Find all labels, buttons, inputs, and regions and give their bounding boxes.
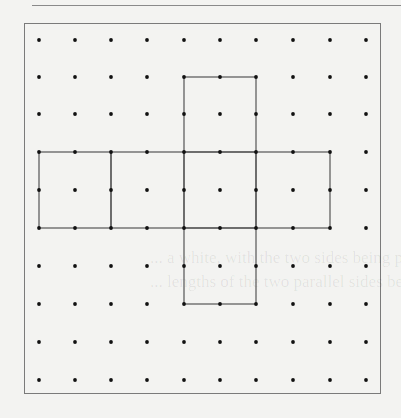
grid-dot (182, 75, 186, 79)
grid-dot (73, 150, 77, 154)
grid-dot (364, 150, 368, 154)
grid-dot (145, 112, 149, 116)
grid-dot (145, 378, 149, 382)
grid-dot (218, 264, 222, 268)
grid-dot (145, 302, 149, 306)
grid-dot (291, 75, 295, 79)
grid-dot (37, 112, 41, 116)
grid-dot (73, 378, 77, 382)
grid-dot (364, 112, 368, 116)
grid-dot (254, 112, 258, 116)
grid-dot (218, 75, 222, 79)
grid-dot (37, 302, 41, 306)
grid-dot (73, 112, 77, 116)
grid-dot (254, 302, 258, 306)
grid-dot (73, 188, 77, 192)
grid-dot (328, 226, 332, 230)
grid-dot (145, 340, 149, 344)
grid-dot (109, 75, 113, 79)
grid-dot (73, 264, 77, 268)
grid-dot (218, 378, 222, 382)
grid-dot (182, 150, 186, 154)
grid-dot (109, 378, 113, 382)
grid-dot (182, 302, 186, 306)
grid-dot (109, 188, 113, 192)
grid-dot (109, 38, 113, 42)
grid-dot (145, 75, 149, 79)
grid-dot (182, 226, 186, 230)
grid-dot (328, 378, 332, 382)
grid-dot (218, 226, 222, 230)
grid-dot (218, 112, 222, 116)
grid-dot (37, 75, 41, 79)
grid-dot (328, 150, 332, 154)
grid-dot (145, 188, 149, 192)
grid-dot (218, 38, 222, 42)
grid-dots (37, 38, 368, 382)
grid-dot (328, 188, 332, 192)
grid-dot (254, 340, 258, 344)
grid-dot (37, 150, 41, 154)
grid-dot (109, 264, 113, 268)
grid-dot (291, 226, 295, 230)
grid-dot (291, 38, 295, 42)
grid-dot (364, 264, 368, 268)
grid-dot (291, 302, 295, 306)
grid-dot (254, 188, 258, 192)
grid-dot (109, 226, 113, 230)
grid-dot (328, 75, 332, 79)
grid-dot (145, 150, 149, 154)
grid-dot (218, 340, 222, 344)
dot-grid-figure (0, 0, 401, 418)
grid-dot (364, 226, 368, 230)
grid-dot (364, 302, 368, 306)
grid-dot (73, 75, 77, 79)
grid-dot (182, 188, 186, 192)
grid-dot (364, 188, 368, 192)
grid-dot (291, 188, 295, 192)
grid-dot (37, 264, 41, 268)
grid-dot (73, 302, 77, 306)
grid-dot (328, 302, 332, 306)
grid-dot (37, 340, 41, 344)
grid-dot (328, 38, 332, 42)
grid-dot (254, 226, 258, 230)
grid-dot (254, 38, 258, 42)
grid-dot (328, 112, 332, 116)
grid-dot (145, 226, 149, 230)
grid-dot (291, 264, 295, 268)
grid-dot (254, 150, 258, 154)
grid-dot (73, 38, 77, 42)
grid-dot (145, 264, 149, 268)
grid-dot (328, 264, 332, 268)
grid-dot (254, 75, 258, 79)
grid-dot (291, 378, 295, 382)
grid-dot (37, 38, 41, 42)
grid-dot (364, 378, 368, 382)
grid-dot (291, 340, 295, 344)
grid-dot (37, 188, 41, 192)
grid-dot (182, 264, 186, 268)
grid-dot (182, 340, 186, 344)
grid-dot (291, 150, 295, 154)
grid-dot (254, 378, 258, 382)
grid-dot (254, 264, 258, 268)
grid-dot (364, 75, 368, 79)
grid-dot (145, 38, 149, 42)
grid-dot (109, 340, 113, 344)
grid-dot (109, 302, 113, 306)
grid-dot (182, 38, 186, 42)
grid-dot (109, 150, 113, 154)
grid-dot (182, 112, 186, 116)
grid-dot (291, 112, 295, 116)
grid-dot (218, 302, 222, 306)
grid-dot (73, 340, 77, 344)
grid-dot (328, 340, 332, 344)
grid-dot (182, 378, 186, 382)
grid-dot (218, 150, 222, 154)
grid-dot (37, 378, 41, 382)
grid-dot (364, 340, 368, 344)
grid-dot (364, 38, 368, 42)
grid-dot (218, 188, 222, 192)
grid-dot (37, 226, 41, 230)
